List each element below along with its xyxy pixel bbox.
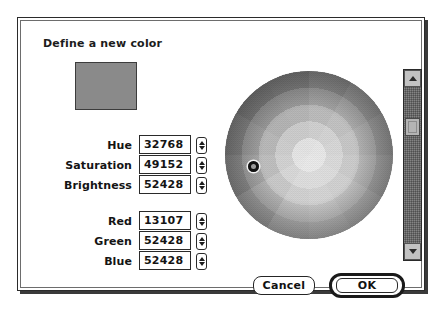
dialog-button-row: Cancel OK	[253, 273, 405, 298]
ok-button-default-ring[interactable]: OK	[329, 273, 405, 298]
blue-input[interactable]: 52428	[139, 251, 191, 270]
saturation-stepper[interactable]	[196, 157, 207, 174]
green-input[interactable]: 52428	[139, 231, 191, 250]
field-label-red: Red	[61, 215, 139, 228]
hue-input[interactable]: 32768	[139, 135, 191, 154]
brightness-stepper[interactable]	[196, 177, 207, 194]
stepper-down-icon[interactable]	[199, 262, 205, 266]
dialog-title: Define a new color	[43, 37, 162, 50]
field-label-brightness: Brightness	[61, 179, 139, 192]
hue-value: 32768	[140, 138, 183, 151]
arrow-down-icon	[409, 249, 417, 254]
red-input[interactable]: 13107	[139, 211, 191, 230]
red-value: 13107	[140, 214, 183, 227]
stepper-up-icon[interactable]	[199, 161, 205, 165]
dialog-inner-border: Define a new color Hue 32768 Saturation	[20, 20, 422, 288]
field-row-hue: Hue 32768	[61, 135, 207, 155]
color-picker-dialog: Define a new color Hue 32768 Saturation	[17, 17, 425, 291]
stepper-up-icon[interactable]	[199, 257, 205, 261]
scrollbar-down-button[interactable]	[404, 243, 421, 260]
stepper-down-icon[interactable]	[199, 222, 205, 226]
hsb-field-group: Hue 32768 Saturation 49152	[61, 135, 207, 195]
ok-button[interactable]: OK	[336, 278, 398, 293]
color-wheel[interactable]	[225, 71, 393, 239]
field-row-blue: Blue 52428	[61, 251, 207, 271]
field-row-brightness: Brightness 52428	[61, 175, 207, 195]
field-label-blue: Blue	[61, 255, 139, 268]
color-wheel-canvas[interactable]	[225, 71, 393, 239]
blue-value: 52428	[140, 254, 183, 267]
brightness-scrollbar[interactable]	[403, 69, 422, 261]
field-row-red: Red 13107	[61, 211, 207, 231]
stepper-up-icon[interactable]	[199, 217, 205, 221]
stepper-up-icon[interactable]	[199, 181, 205, 185]
stepper-down-icon[interactable]	[199, 242, 205, 246]
saturation-value: 49152	[140, 158, 183, 171]
brightness-input[interactable]: 52428	[139, 175, 191, 194]
green-value: 52428	[140, 234, 183, 247]
scrollbar-up-button[interactable]	[404, 70, 421, 87]
red-stepper[interactable]	[196, 213, 207, 230]
scrollbar-thumb[interactable]	[405, 118, 420, 136]
brightness-value: 52428	[140, 178, 183, 191]
field-label-saturation: Saturation	[61, 159, 139, 172]
color-preview-swatch	[75, 62, 137, 110]
field-label-hue: Hue	[61, 139, 139, 152]
rgb-field-group: Red 13107 Green 52428	[61, 211, 207, 271]
cancel-button[interactable]: Cancel	[253, 276, 315, 295]
blue-stepper[interactable]	[196, 253, 207, 270]
field-label-green: Green	[61, 235, 139, 248]
stepper-down-icon[interactable]	[199, 146, 205, 150]
arrow-up-icon	[409, 76, 417, 81]
dialog-screen: Define a new color Hue 32768 Saturation	[0, 0, 442, 310]
scrollbar-track[interactable]	[404, 87, 421, 243]
field-row-green: Green 52428	[61, 231, 207, 251]
stepper-down-icon[interactable]	[199, 186, 205, 190]
field-row-saturation: Saturation 49152	[61, 155, 207, 175]
color-wheel-disc[interactable]	[225, 71, 393, 239]
dialog-shadow-right	[425, 20, 428, 291]
saturation-input[interactable]: 49152	[139, 155, 191, 174]
stepper-up-icon[interactable]	[199, 141, 205, 145]
stepper-up-icon[interactable]	[199, 237, 205, 241]
stepper-down-icon[interactable]	[199, 166, 205, 170]
green-stepper[interactable]	[196, 233, 207, 250]
hue-stepper[interactable]	[196, 137, 207, 154]
